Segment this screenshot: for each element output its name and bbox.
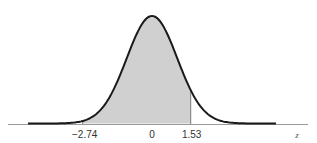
- normal-curve-chart: −2.74 0 1.53 z: [0, 0, 317, 143]
- tick-label-pos: 1.53: [182, 129, 202, 140]
- x-axis-label: z: [294, 130, 299, 140]
- tick-label-neg: −2.74: [72, 129, 98, 140]
- tick-label-zero: 0: [149, 129, 155, 140]
